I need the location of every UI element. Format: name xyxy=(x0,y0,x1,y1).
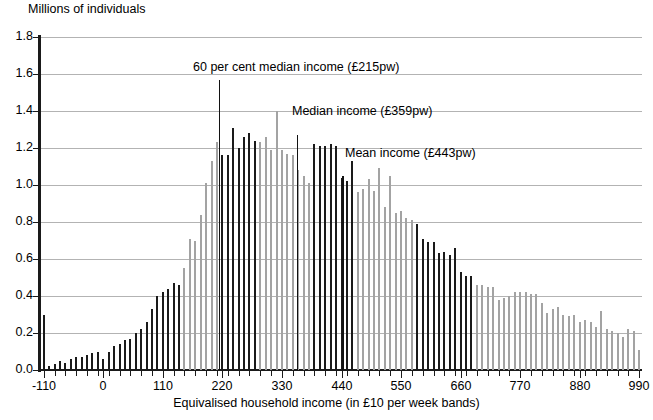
histogram-bar xyxy=(449,255,451,370)
histogram-bar xyxy=(481,285,483,370)
y-axis-title: Millions of individuals xyxy=(28,2,145,16)
histogram-bar xyxy=(368,179,370,370)
histogram-bar xyxy=(395,213,397,370)
x-tick-mark xyxy=(184,371,185,376)
histogram-bar xyxy=(194,241,196,371)
x-tick-mark xyxy=(596,371,597,376)
histogram-bar xyxy=(617,333,619,370)
x-tick-mark xyxy=(130,371,131,376)
histogram-bar xyxy=(124,340,126,370)
y-tick-mark xyxy=(33,222,41,223)
histogram-bar xyxy=(476,285,478,370)
histogram-bar xyxy=(460,272,462,370)
income-distribution-chart: Millions of individuals 0.00.20.40.60.81… xyxy=(0,0,653,420)
x-tick-mark xyxy=(87,371,88,376)
y-tick-mark xyxy=(33,148,41,149)
x-axis-title: Equivalised household income (in £10 per… xyxy=(0,396,653,410)
histogram-bar xyxy=(216,142,218,370)
x-tick-mark-major xyxy=(580,371,581,378)
histogram-bar xyxy=(146,322,148,370)
histogram-bar xyxy=(75,357,77,370)
histogram-bar xyxy=(119,344,121,370)
y-tick-label: 0.0 xyxy=(3,362,33,376)
chart-annotation: 60 per cent median income (£215pw) xyxy=(193,60,399,74)
histogram-bar xyxy=(286,154,288,370)
x-tick-mark xyxy=(336,371,337,376)
y-tick-mark xyxy=(33,259,41,260)
y-tick-label: 0.4 xyxy=(3,288,33,302)
histogram-bar xyxy=(465,276,467,370)
histogram-bar xyxy=(243,137,245,370)
histogram-bar xyxy=(492,287,494,370)
histogram-bar xyxy=(113,346,115,370)
histogram-bar xyxy=(422,239,424,370)
histogram-bar xyxy=(622,337,624,370)
y-tick-label: 1.6 xyxy=(3,66,33,80)
histogram-bar xyxy=(503,298,505,370)
x-tick-mark xyxy=(174,371,175,376)
y-tick-mark xyxy=(33,296,41,297)
x-tick-mark xyxy=(325,371,326,376)
x-tick-mark xyxy=(423,371,424,376)
y-tick-mark xyxy=(33,111,41,112)
x-tick-label: 770 xyxy=(497,379,543,393)
x-tick-label: 440 xyxy=(319,379,365,393)
histogram-bar xyxy=(54,364,56,370)
histogram-bar xyxy=(400,211,402,370)
histogram-bar xyxy=(405,218,407,370)
x-tick-label: 0 xyxy=(80,379,126,393)
x-tick-mark xyxy=(109,371,110,376)
histogram-bar xyxy=(525,292,527,370)
x-tick-mark xyxy=(249,371,250,376)
x-tick-mark-major xyxy=(222,371,223,378)
histogram-bar xyxy=(438,253,440,370)
x-tick-mark-major xyxy=(103,371,104,378)
histogram-bar xyxy=(173,283,175,370)
x-tick-mark xyxy=(152,371,153,376)
histogram-bar xyxy=(276,111,278,370)
x-tick-label: 660 xyxy=(438,379,484,393)
x-tick-mark xyxy=(466,371,467,376)
histogram-bar xyxy=(627,329,629,370)
histogram-bar xyxy=(498,300,500,370)
x-tick-mark xyxy=(120,371,121,376)
x-tick-label: -110 xyxy=(21,379,67,393)
histogram-bar xyxy=(470,276,472,370)
x-tick-mark xyxy=(542,371,543,376)
histogram-bar xyxy=(43,315,45,371)
histogram-bar xyxy=(248,133,250,370)
x-tick-mark xyxy=(585,371,586,376)
histogram-bar xyxy=(292,155,294,370)
histogram-bar xyxy=(167,289,169,370)
x-tick-mark xyxy=(314,371,315,376)
x-tick-mark-major xyxy=(520,371,521,378)
histogram-bar xyxy=(535,294,537,370)
y-tick-mark xyxy=(33,37,41,38)
histogram-bar xyxy=(378,168,380,370)
histogram-bar xyxy=(59,361,61,370)
x-tick-mark xyxy=(574,371,575,376)
histogram-bar xyxy=(357,192,359,370)
x-tick-mark xyxy=(618,371,619,376)
histogram-bar xyxy=(514,292,516,370)
x-tick-mark-major xyxy=(342,371,343,378)
histogram-bar xyxy=(346,181,348,370)
histogram-bar xyxy=(108,352,110,371)
histogram-bar xyxy=(595,327,597,370)
y-tick-label: 1.4 xyxy=(3,103,33,117)
x-tick-label: 110 xyxy=(140,379,186,393)
histogram-bar xyxy=(319,146,321,370)
histogram-bar xyxy=(97,352,99,371)
x-tick-label: 550 xyxy=(378,379,424,393)
histogram-bar xyxy=(541,303,543,370)
chart-annotation: Median income (£359pw) xyxy=(292,104,432,118)
y-tick-label: 0.6 xyxy=(3,251,33,265)
histogram-bar xyxy=(611,331,613,370)
histogram-bar xyxy=(590,322,592,370)
histogram-bar xyxy=(259,142,261,370)
chart-annotation: Mean income (£443pw) xyxy=(345,146,476,160)
histogram-bar xyxy=(557,307,559,370)
x-tick-mark xyxy=(477,371,478,376)
x-tick-mark xyxy=(455,371,456,376)
histogram-bar xyxy=(64,363,66,370)
